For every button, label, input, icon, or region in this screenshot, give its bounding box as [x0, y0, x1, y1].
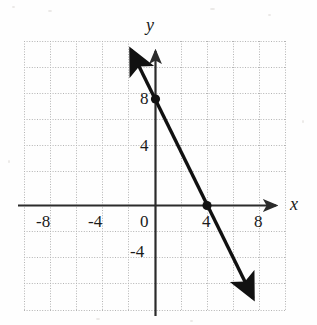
- x-tick-label-neg4: -4: [88, 213, 102, 230]
- coordinate-plane-svg: [0, 0, 317, 325]
- scan-speck: [302, 120, 304, 123]
- x-tick-label-0: 0: [140, 213, 149, 230]
- scan-speck: [48, 10, 52, 12]
- scan-speck: [8, 160, 10, 163]
- y-tick-label-8: 8: [140, 90, 149, 107]
- line-segment: [131, 50, 253, 298]
- y-tick-label-4: 4: [140, 137, 149, 154]
- point-y-intercept: [151, 94, 160, 103]
- scan-speck: [268, 14, 271, 16]
- scan-speck: [96, 318, 100, 320]
- x-axis-label: x: [290, 195, 298, 213]
- plotted-line: [131, 50, 253, 298]
- x-tick-label-neg8: -8: [36, 213, 50, 230]
- scan-speck: [12, 6, 15, 8]
- scan-speck: [190, 320, 193, 322]
- y-axis-label: y: [146, 16, 154, 34]
- y-tick-label-neg4: -4: [130, 243, 144, 260]
- point-x-intercept: [202, 201, 211, 210]
- scan-speck: [210, 8, 215, 10]
- x-tick-label-4: 4: [202, 213, 211, 230]
- x-tick-label-8: 8: [254, 213, 263, 230]
- graph-figure: -8 -4 0 4 8 8 4 -4 y x: [0, 0, 317, 325]
